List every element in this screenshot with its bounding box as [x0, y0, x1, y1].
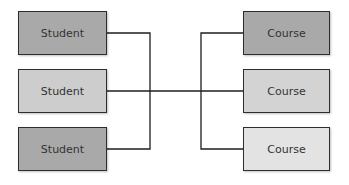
course-node-2: Course: [243, 69, 330, 113]
course-node-label: Course: [267, 27, 305, 40]
student-node-label: Student: [41, 27, 84, 40]
student-node-label: Student: [41, 143, 84, 156]
student-node-2: Student: [18, 69, 107, 113]
student-node-3: Student: [18, 127, 107, 171]
student-node-label: Student: [41, 85, 84, 98]
course-node-label: Course: [267, 85, 305, 98]
course-node-1: Course: [243, 11, 330, 55]
course-node-label: Course: [267, 143, 305, 156]
student-node-1: Student: [18, 11, 107, 55]
course-node-3: Course: [243, 127, 330, 171]
